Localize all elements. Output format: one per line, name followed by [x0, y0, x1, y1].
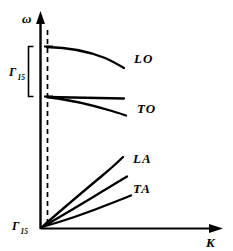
curve-to [47, 97, 126, 116]
gap-bracket [29, 47, 34, 97]
branch-label-la: LA [132, 151, 152, 166]
x-axis [41, 224, 224, 233]
branch-label-ta: TA [133, 181, 151, 196]
origin-gamma-label: Γ 15 [11, 219, 28, 236]
phonon-dispersion-figure: ω K Γ 15 Γ 15 LO TO LA TA [0, 0, 233, 251]
gap-gamma-subscript: 15 [18, 73, 26, 82]
y-axis-arrowhead [36, 11, 45, 24]
curve-la [42, 157, 123, 227]
origin-gamma-subscript: 15 [21, 227, 29, 236]
gap-bracket-path [29, 47, 34, 97]
gap-gamma-symbol: Γ [8, 65, 17, 79]
x-axis-label: K [205, 235, 216, 250]
gap-gamma-label: Γ 15 [8, 65, 25, 82]
branch-label-lo: LO [133, 51, 153, 66]
y-axis [36, 11, 45, 229]
origin-gamma-symbol: Γ [11, 219, 20, 233]
branch-label-to: TO [137, 101, 156, 116]
x-axis-arrowhead [209, 224, 223, 233]
y-axis-label: ω [22, 11, 31, 26]
dispersion-plot-svg: ω K Γ 15 Γ 15 LO TO LA TA [0, 0, 233, 251]
curve-lo [47, 47, 124, 68]
